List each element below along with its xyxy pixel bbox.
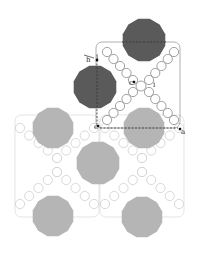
small-circle — [89, 199, 98, 208]
label-e: e — [94, 123, 98, 131]
small-circle — [15, 123, 24, 132]
small-circle — [169, 115, 178, 124]
small-circle — [147, 175, 156, 184]
small-circle — [100, 199, 109, 208]
center-circle — [136, 81, 146, 91]
label-a: a — [181, 128, 185, 136]
small-circle — [71, 138, 80, 147]
small-circle — [128, 146, 137, 155]
light-dodecagon — [77, 142, 120, 185]
small-circle — [109, 108, 118, 117]
light-dodecagon — [122, 197, 163, 238]
small-circle — [15, 199, 24, 208]
small-circle — [80, 191, 89, 200]
small-circle — [122, 94, 131, 103]
small-circle — [102, 115, 111, 124]
light-dodecagon — [33, 196, 74, 237]
label-i-upper: i — [96, 53, 99, 61]
tiling-diagram: h i c i e a — [0, 0, 199, 254]
small-circle — [119, 183, 128, 192]
small-circle — [128, 87, 137, 96]
small-circle — [43, 175, 52, 184]
small-circle — [25, 131, 34, 140]
diagram-canvas: h i c i e a — [0, 0, 199, 254]
small-circle — [71, 183, 80, 192]
light-dodecagon — [33, 108, 74, 149]
small-circle — [137, 153, 146, 162]
small-circle — [137, 167, 146, 176]
small-circle — [165, 131, 174, 140]
small-circle — [110, 191, 119, 200]
label-h: h — [86, 56, 91, 64]
small-circle — [128, 175, 137, 184]
small-circle — [115, 61, 124, 70]
small-circle — [34, 183, 43, 192]
small-circle — [122, 68, 131, 77]
small-circle — [102, 47, 111, 56]
small-circle — [52, 167, 61, 176]
small-circle — [156, 183, 165, 192]
label-c: c — [129, 79, 133, 87]
small-circle — [119, 138, 128, 147]
dark-dodecagon — [123, 19, 166, 62]
point-marker — [133, 81, 135, 83]
small-circle — [62, 175, 71, 184]
small-circle — [165, 191, 174, 200]
small-circle — [52, 153, 61, 162]
dark-layer — [74, 19, 182, 131]
small-circle — [109, 54, 118, 63]
dark-dodecagon — [74, 66, 117, 109]
small-circle — [110, 131, 119, 140]
small-circle — [62, 146, 71, 155]
small-circle — [174, 199, 183, 208]
small-circle — [80, 131, 89, 140]
label-i-right: i — [153, 81, 156, 89]
small-circle — [115, 101, 124, 110]
small-circle — [25, 191, 34, 200]
